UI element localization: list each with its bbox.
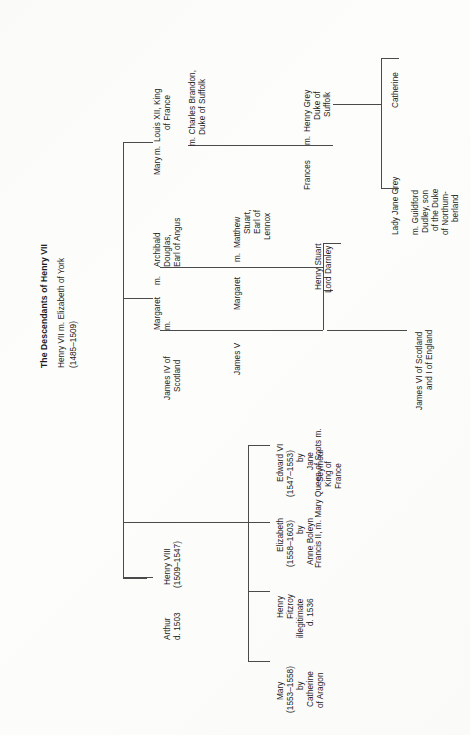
- node-mary-tudor-2nd-marriage-line-0: m. Charles Brandon,: [188, 70, 198, 146]
- trunk-spine: [123, 142, 124, 578]
- node-edward6-line-0: Edward VI: [276, 444, 286, 482]
- family-tree-diagram: The Descendants of Henry VII Henry VII m…: [0, 0, 470, 735]
- node-margaret1-spouse-line-2: Earl of Angus: [173, 218, 183, 267]
- child-stub-edward6: [248, 445, 270, 446]
- node-edward6-line-1: (1547–1553): [286, 450, 296, 497]
- node-mary-tudor-spouse-line-1: of France: [163, 95, 173, 130]
- node-mary1-line-4: of Aragon: [316, 672, 326, 708]
- root-person-dates: (1485–1509): [69, 321, 79, 368]
- child-stub-elizabeth: [248, 522, 270, 523]
- child-stub-mary1: [248, 661, 270, 662]
- node-margaret2-spouse-line-2: Earl of: [253, 210, 263, 234]
- james4-to-james5: [160, 330, 323, 331]
- node-mary-tudor-2nd-marriage-line-1: Duke of Suffolk: [198, 79, 208, 135]
- node-mqs-prefix: Francis II, m. Mary Queen of Scots m.: [314, 428, 324, 568]
- node-jane-grey-marriage-1: Dudley, son: [421, 190, 431, 233]
- root-person-name: Henry VII m. Elizabeth of York: [57, 258, 67, 368]
- grey-children-bracket: [381, 58, 382, 188]
- node-margaret1-marriage-marker: m.: [153, 276, 163, 285]
- root-stub: [123, 578, 147, 579]
- node-mqs-prefix-extra-1: France: [334, 463, 344, 489]
- node-mary1-line-3: Catherine: [306, 671, 316, 707]
- node-fitzroy-line-2: illegitimate: [296, 599, 306, 638]
- node-mary1-line-1: (1553–1558): [286, 666, 296, 713]
- node-margaret2-name: Margaret: [233, 277, 243, 310]
- node-frances-spouse-line-0: Henry Grey: [303, 90, 313, 132]
- node-jane-grey-marriage-4: berland: [451, 194, 461, 222]
- node-henry8-line-0: Henry VIII: [163, 548, 173, 585]
- node-margaret1-name: Margaret: [153, 297, 163, 330]
- node-james4-line-0: James IV of: [163, 356, 173, 400]
- node-margaret1-spouse-line-1: Douglas,: [163, 234, 173, 267]
- node-darnley-line-1: Lord Darnley: [324, 246, 334, 293]
- node-james4-marriage-marker: m.: [163, 321, 173, 330]
- node-arthur-line-0: Arthur: [163, 617, 173, 640]
- node-jane-grey-marriage-0: m. Guildford: [411, 190, 421, 235]
- node-arthur-line-1: d. 1503: [173, 612, 183, 640]
- node-margaret2-spouse-line-1: Stuart,: [243, 210, 253, 234]
- node-fitzroy-line-0: Henry: [276, 596, 286, 618]
- branch-mary-tudor: [123, 142, 153, 143]
- node-frances-name: Frances: [303, 160, 313, 190]
- node-james6-line-0: James VI of Scotland: [415, 332, 425, 410]
- child-stub-fitzroy: [248, 591, 270, 592]
- node-mary-tudor-spouse-line-0: Louis XII, King: [153, 88, 163, 142]
- node-margaret2-spouse-line-0: Matthew: [233, 217, 243, 248]
- brandon-union-to-frances: [188, 145, 333, 146]
- node-fitzroy-line-1: Fitzroy: [286, 594, 296, 619]
- child-stub-catherine: [381, 58, 399, 59]
- node-margaret2-spouse-line-3: Lennox: [263, 213, 273, 240]
- node-elizabeth1-line-0: Elizabeth: [276, 518, 286, 552]
- node-mary1-line-2: by: [296, 681, 306, 690]
- node-margaret2-marriage-marker: m.: [233, 253, 243, 262]
- margaret2-spouse-stub: [323, 243, 341, 244]
- henry8-children-bracket: [248, 445, 249, 662]
- branch-arthur: [123, 577, 153, 578]
- branch-henry8: [123, 522, 153, 523]
- henry8-children-stem: [153, 522, 248, 523]
- margaret1-to-margaret2: [160, 267, 323, 268]
- node-catherine-grey-name: Catherine: [391, 72, 401, 108]
- frances-grey-stem: [333, 104, 381, 105]
- node-jane-grey-name: Lady Jane Grey: [391, 176, 401, 235]
- node-mary-tudor-marriage-marker: m.: [153, 146, 163, 155]
- node-frances-spouse-line-2: Suffolk: [323, 92, 333, 117]
- node-frances-spouse-line-1: Duke of: [313, 91, 323, 120]
- node-james5-label: James V: [233, 343, 243, 375]
- mqs-to-james6: [327, 330, 407, 331]
- node-henry8-line-1: (1509–1547): [173, 541, 183, 588]
- node-fitzroy-line-3: d. 1536: [306, 598, 316, 626]
- node-james4-line-1: Scotland: [173, 360, 183, 392]
- node-james6-line-1: and I of England: [425, 330, 435, 390]
- branch-margaret1: [123, 298, 153, 299]
- node-edward6-line-2: by: [296, 453, 306, 462]
- node-elizabeth1-line-2: by: [296, 525, 306, 534]
- page-title: The Descendants of Henry VII: [40, 244, 50, 368]
- node-margaret1-spouse-line-0: Archibald: [153, 232, 163, 267]
- node-mary1-line-0: Mary: [276, 682, 286, 700]
- node-mary-tudor-name: Mary: [153, 157, 163, 175]
- node-darnley-line-0: Henry Stuart: [314, 243, 324, 290]
- node-jane-grey-marriage-3: of Northum-: [441, 191, 451, 235]
- node-jane-grey-marriage-2: of the Duke: [431, 189, 441, 231]
- node-elizabeth1-line-1: (1558–1603): [286, 520, 296, 567]
- node-mqs-prefix-extra-0: King of: [324, 461, 334, 487]
- node-frances-marriage-marker: m.: [303, 136, 313, 145]
